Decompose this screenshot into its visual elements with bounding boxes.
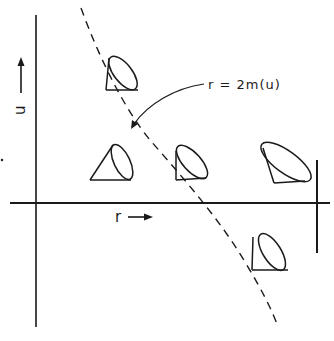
horizon-curve	[81, 8, 278, 327]
light-cone-diagram: u r r = 2m(u)	[0, 0, 334, 341]
light-cone-upper-left	[104, 52, 143, 95]
curve-label: r = 2m(u)	[208, 77, 281, 92]
r-axis-label: r	[115, 208, 122, 226]
r-axis-arrow-icon	[128, 214, 153, 221]
margin-dot	[1, 159, 3, 161]
light-cone-lower	[252, 229, 291, 274]
light-cone-left-middle	[90, 141, 137, 182]
curve-pointer-arrow-icon	[131, 84, 204, 129]
u-axis-label: u	[11, 105, 29, 115]
light-cone-center	[171, 140, 212, 183]
u-axis-arrow-icon	[18, 57, 25, 93]
light-cone-right	[255, 135, 316, 188]
